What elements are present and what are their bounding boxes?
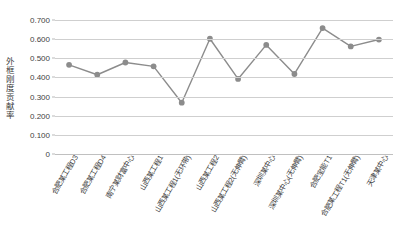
chart-container: 外框刚度贡献率 00.1000.2000.3000.4000.5000.6000… (0, 0, 404, 252)
y-axis-tick-mark (52, 115, 55, 116)
data-point (123, 60, 129, 66)
x-axis-tick-label: 南宁某财富中心 (105, 154, 136, 200)
data-point (179, 100, 185, 106)
plot-area (55, 20, 393, 154)
y-axis-tick-label: 0.300 (30, 92, 50, 101)
gridline (55, 77, 393, 78)
y-axis-tick-mark (52, 77, 55, 78)
data-point (151, 63, 157, 69)
y-axis-tick-label: 0.500 (30, 54, 50, 63)
gridline (55, 39, 393, 40)
y-axis-title: 外框刚度贡献率 (2, 18, 16, 158)
x-axis-tick-label: 山西某工程2 (194, 154, 220, 192)
y-axis-tick-mark (52, 154, 55, 155)
gridline (55, 116, 393, 117)
y-axis-tick-mark (52, 39, 55, 40)
y-axis-tick-label: 0.700 (30, 16, 50, 25)
y-axis-tick-mark (52, 134, 55, 135)
gridline (55, 58, 393, 59)
x-axis-tick-label: 合肥某工程D4 (79, 154, 108, 196)
y-axis-tick-label: 0.600 (30, 35, 50, 44)
data-point (66, 62, 72, 68)
y-axis-tick-label: 0.200 (30, 111, 50, 120)
x-axis-tick-label: 山西某工程1 (138, 154, 164, 192)
data-point (292, 71, 298, 77)
y-axis-tick-mark (52, 20, 55, 21)
x-axis-tick-label: 合肥宝能T1 (308, 154, 333, 189)
y-axis-tick-label: 0.400 (30, 73, 50, 82)
y-axis-tick-mark (52, 58, 55, 59)
data-point (320, 25, 326, 31)
x-axis-tick-labels: 合肥某工程D3合肥某工程D4南宁某财富中心山西某工程1山西某工程1(无环带)山西… (55, 154, 393, 252)
gridline (55, 97, 393, 98)
data-point (348, 44, 354, 50)
gridline (55, 20, 393, 21)
y-axis-tick-label: 0 (46, 150, 50, 159)
x-axis-tick-label: 合肥某工程D3 (51, 154, 80, 196)
x-axis-tick-label: 天津某中心 (365, 154, 389, 188)
y-axis-tick-label: 0.100 (30, 130, 50, 139)
y-axis-tick-labels: 00.1000.2000.3000.4000.5000.6000.700 (16, 0, 52, 252)
y-axis-tick-mark (52, 96, 55, 97)
data-point (263, 42, 269, 48)
x-axis-tick-label: 深圳某中心 (253, 154, 277, 188)
gridline (55, 135, 393, 136)
